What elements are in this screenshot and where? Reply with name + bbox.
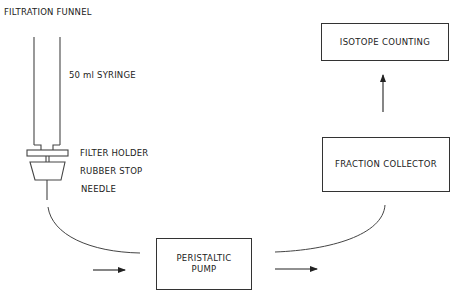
peristaltic-pump-box: PERISTALTIC PUMP [156, 238, 252, 290]
fraction-collector-label: FRACTION COLLECTOR [335, 159, 437, 170]
filtration-funnel-label: FILTRATION FUNNEL [4, 7, 92, 17]
rubber-stop-icon [30, 162, 65, 180]
pump-label-line1: PERISTALTIC [176, 253, 231, 264]
isotope-counting-box: ISOTOPE COUNTING [321, 23, 449, 61]
needle-label: NEEDLE [81, 184, 116, 194]
tube-curve-right [275, 205, 385, 252]
fraction-collector-box: FRACTION COLLECTOR [322, 137, 450, 192]
isotope-counting-label: ISOTOPE COUNTING [340, 37, 430, 48]
syringe-icon [34, 37, 60, 150]
rubber-stop-label: RUBBER STOP [80, 166, 142, 176]
pump-label-line2: PUMP [191, 264, 216, 275]
syringe-label: 50 ml SYRINGE [69, 70, 136, 80]
filter-holder-label: FILTER HOLDER [80, 148, 148, 158]
tube-curve-left [48, 207, 140, 253]
filter-holder-icon [27, 150, 68, 162]
diagram-canvas: FILTRATION FUNNEL 50 ml SYRINGE FILTER H… [0, 0, 462, 304]
